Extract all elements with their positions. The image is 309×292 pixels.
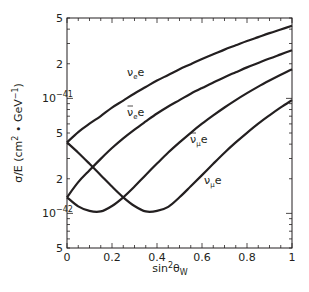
curve-ν̄μ-e [67, 69, 292, 212]
curve-label: νee [127, 106, 144, 121]
y-tick-label: 2 [56, 173, 63, 186]
y-tick-label: 10−41 [42, 90, 73, 105]
y-tick-label: 5 [56, 12, 63, 25]
y-tick-label: 5 [56, 127, 63, 140]
cross-section-chart: 00.20.40.60.81 5210−415210−425 νeeνeeνμe… [0, 0, 309, 292]
y-tick-label: 5 [56, 242, 63, 255]
x-tick-label: 1 [289, 251, 296, 264]
x-tick-label: 0.2 [103, 251, 121, 264]
y-axis-title: σ/E (cm2 • GeV−1) [11, 83, 25, 183]
y-tick-label: 10−42 [42, 205, 73, 220]
x-axis-title: sin2θW [152, 261, 188, 277]
x-tick-label: 0.6 [193, 251, 211, 264]
x-tick-label: 0.8 [238, 251, 256, 264]
x-tick-label: 0 [64, 251, 71, 264]
curve-label: νμe [204, 174, 222, 189]
axis-ticks [67, 18, 292, 248]
y-tick-label: 2 [56, 58, 63, 71]
curve-label: νμe [190, 133, 208, 148]
curve-label: νee [127, 66, 144, 81]
curves [67, 26, 292, 212]
plot-frame [67, 18, 292, 248]
